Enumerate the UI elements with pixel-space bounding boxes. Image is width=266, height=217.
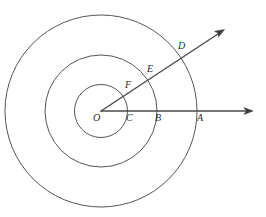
concentric-circles-figure xyxy=(0,0,266,217)
diagonal-ray xyxy=(101,33,220,111)
label-point-a: A xyxy=(197,113,203,123)
label-point-e: E xyxy=(147,64,153,74)
label-point-f: F xyxy=(125,80,131,90)
label-point-b: B xyxy=(155,113,161,123)
label-point-d: D xyxy=(178,41,185,51)
geometry-diagram-canvas: O C B A F E D xyxy=(0,0,266,217)
label-point-o: O xyxy=(93,113,100,123)
label-point-c: C xyxy=(126,113,133,123)
